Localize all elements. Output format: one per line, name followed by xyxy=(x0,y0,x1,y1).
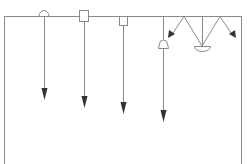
dome-ceiling-light-icon xyxy=(39,11,49,101)
arrow-down-icon xyxy=(161,110,167,122)
recessed-box-light-icon xyxy=(120,17,128,115)
diagram-svg xyxy=(0,0,247,164)
arrow-down-icon xyxy=(121,102,127,114)
square-surface-light-icon xyxy=(80,11,89,109)
arrow-right-diagonal-line xyxy=(220,17,231,34)
arrow-left-diagonal-line xyxy=(173,17,184,34)
bell-pendant-light-icon xyxy=(159,17,169,122)
arrow-down-icon xyxy=(82,96,88,108)
arrow-down-icon xyxy=(42,88,48,100)
frame xyxy=(4,16,242,164)
bowl-pendant-light-icon xyxy=(184,17,220,52)
lighting-diagram xyxy=(0,0,247,164)
